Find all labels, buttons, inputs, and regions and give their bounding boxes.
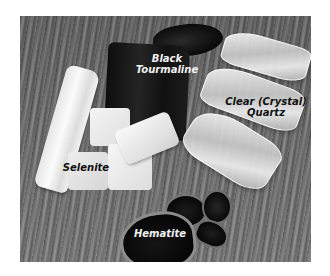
black-tourmaline-label-line2: Tourmaline <box>124 64 210 75</box>
clear-quartz-label-line2: Quartz <box>218 107 311 118</box>
clear-quartz-label-line1: Clear (Crystal) <box>218 96 311 107</box>
black-tourmaline-label-line1: Black <box>124 53 210 64</box>
clear-quartz-label: Clear (Crystal) Quartz <box>218 96 311 118</box>
crystals-photo: Black Tourmaline Clear (Crystal) Quartz … <box>20 16 311 262</box>
selenite-label: Selenite <box>56 162 116 173</box>
hematite-label: Hematite <box>128 228 192 239</box>
black-tourmaline-label: Black Tourmaline <box>124 53 210 75</box>
